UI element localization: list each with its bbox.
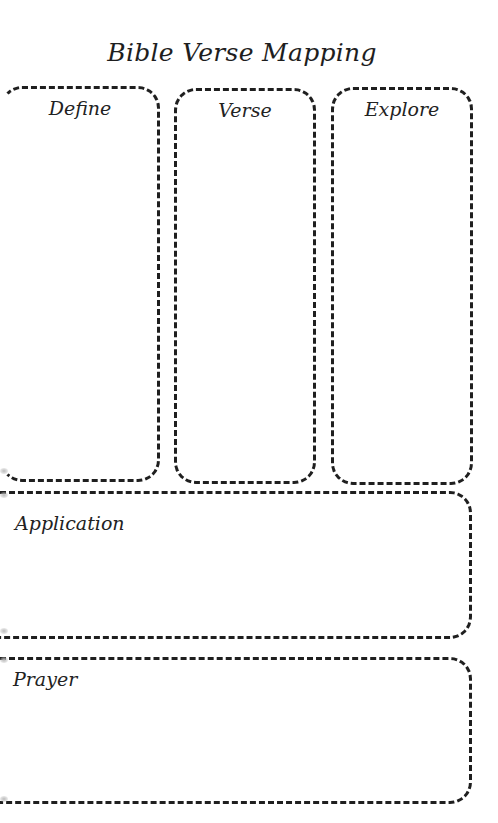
prayer-box[interactable]: Prayer: [0, 657, 472, 804]
verse-label: Verse: [177, 99, 313, 121]
edge-smudge: [0, 657, 8, 663]
explore-box[interactable]: Explore: [331, 87, 473, 485]
explore-label: Explore: [334, 98, 470, 120]
edge-smudge: [0, 628, 8, 634]
verse-box[interactable]: Verse: [174, 88, 316, 484]
define-box[interactable]: Define: [0, 86, 160, 482]
application-box[interactable]: Application: [0, 491, 472, 639]
page-title: Bible Verse Mapping: [0, 38, 484, 67]
edge-smudge: [0, 468, 8, 474]
edge-smudge: [0, 796, 8, 802]
application-label: Application: [15, 512, 125, 534]
edge-smudge: [0, 492, 8, 498]
prayer-label: Prayer: [13, 668, 77, 690]
define-label: Define: [3, 97, 157, 119]
